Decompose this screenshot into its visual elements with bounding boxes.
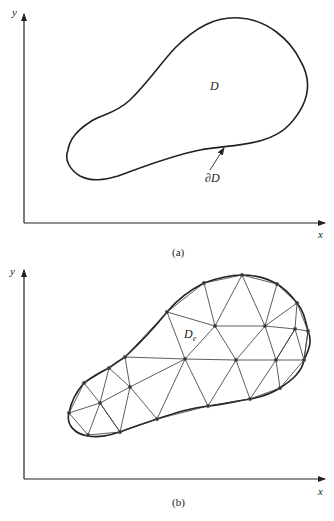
mesh-edge bbox=[69, 413, 88, 435]
mesh-node bbox=[274, 358, 278, 362]
region-boundary-b bbox=[68, 275, 310, 437]
mesh-node bbox=[118, 430, 122, 434]
region-label-d: D bbox=[209, 79, 219, 93]
mesh-edge bbox=[215, 275, 242, 326]
mesh-edge bbox=[125, 357, 185, 359]
mesh-node bbox=[295, 301, 299, 305]
mesh-edge bbox=[84, 383, 100, 403]
boundary-label: ∂D bbox=[205, 171, 220, 185]
mesh-edge bbox=[109, 357, 125, 368]
mesh-node bbox=[293, 327, 297, 331]
mesh-node bbox=[306, 329, 310, 333]
mesh-edge bbox=[265, 284, 277, 326]
caption-b: (b) bbox=[172, 496, 185, 509]
mesh-node bbox=[165, 310, 169, 314]
mesh-edge bbox=[297, 303, 308, 331]
mesh-edge bbox=[236, 326, 265, 360]
x-axis-label-b: x bbox=[317, 485, 323, 497]
mesh-edge bbox=[157, 359, 185, 419]
mesh-edge bbox=[109, 368, 130, 387]
mesh-edge bbox=[100, 368, 109, 403]
mesh-edge bbox=[250, 388, 280, 399]
mesh-edge bbox=[295, 303, 297, 329]
mesh-edge bbox=[295, 329, 304, 360]
mesh-node bbox=[248, 397, 252, 401]
mesh-node bbox=[302, 358, 306, 362]
mesh-node bbox=[67, 411, 71, 415]
mesh-node bbox=[128, 385, 132, 389]
mesh-edge bbox=[208, 360, 236, 406]
mesh-node bbox=[278, 386, 282, 390]
mesh-edge bbox=[242, 275, 265, 326]
mesh-edge bbox=[236, 360, 250, 399]
x-axis-label-a: x bbox=[317, 228, 323, 240]
panel-a: y x D ∂D (a) bbox=[11, 6, 325, 259]
mesh-node bbox=[213, 324, 217, 328]
mesh-edge bbox=[125, 312, 167, 357]
mesh-edge bbox=[167, 283, 204, 312]
mesh-node bbox=[183, 357, 187, 361]
mesh-edge bbox=[265, 326, 295, 329]
mesh-edge bbox=[265, 326, 276, 360]
mesh-node bbox=[123, 355, 127, 359]
mesh-node bbox=[86, 433, 90, 437]
mesh-edge bbox=[276, 360, 280, 388]
mesh-edge bbox=[280, 360, 304, 388]
mesh-edge bbox=[100, 403, 120, 432]
mesh-edge bbox=[84, 368, 109, 383]
y-axis-label-b: y bbox=[9, 265, 15, 277]
mesh-node bbox=[234, 358, 238, 362]
mesh-edge bbox=[204, 275, 242, 283]
mesh-edge bbox=[88, 403, 100, 435]
figure: y x D ∂D (a) y x De (b) bbox=[0, 0, 334, 521]
y-axis-label-a: y bbox=[11, 6, 17, 18]
region-boundary-a bbox=[67, 18, 308, 180]
mesh-edge bbox=[130, 387, 157, 419]
mesh-edge bbox=[185, 359, 208, 406]
mesh-edge bbox=[130, 359, 185, 387]
mesh-node bbox=[202, 281, 206, 285]
mesh-edge bbox=[208, 399, 250, 406]
mesh-edge bbox=[125, 357, 130, 387]
mesh-edge bbox=[120, 419, 157, 432]
mesh-edge bbox=[204, 283, 215, 326]
boundary-pointer-arrow bbox=[210, 148, 224, 170]
mesh-node bbox=[206, 404, 210, 408]
mesh-edge bbox=[167, 312, 215, 326]
mesh-node bbox=[98, 401, 102, 405]
mesh-edge bbox=[120, 387, 130, 432]
mesh-node bbox=[263, 324, 267, 328]
mesh-node bbox=[155, 417, 159, 421]
mesh-node bbox=[275, 282, 279, 286]
mesh-edge bbox=[185, 359, 236, 360]
mesh-node bbox=[107, 366, 111, 370]
mesh-edge bbox=[215, 326, 236, 360]
mesh-edge bbox=[100, 387, 130, 403]
triangular-mesh bbox=[67, 273, 310, 437]
caption-a: (a) bbox=[172, 246, 185, 259]
mesh-edge bbox=[265, 303, 297, 326]
panel-b: y x De (b) bbox=[9, 265, 325, 509]
element-label: De bbox=[183, 327, 197, 343]
mesh-edge bbox=[277, 284, 297, 303]
mesh-edge bbox=[276, 329, 295, 360]
mesh-edge bbox=[167, 312, 185, 359]
mesh-node bbox=[240, 273, 244, 277]
mesh-node bbox=[82, 381, 86, 385]
mesh-edge bbox=[157, 406, 208, 419]
